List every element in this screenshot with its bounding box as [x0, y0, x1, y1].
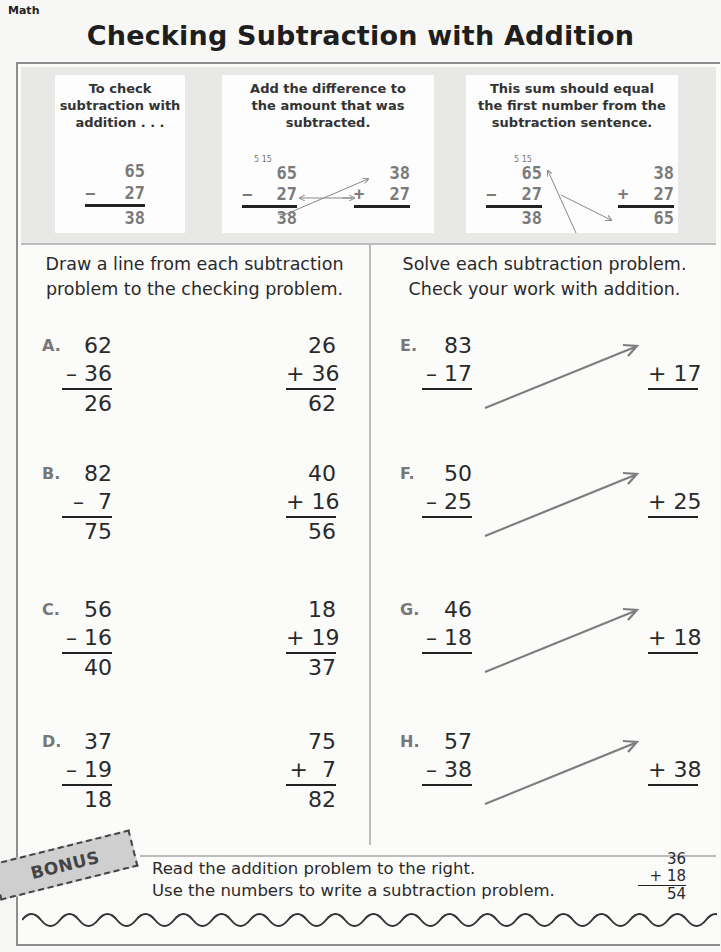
subtraction-problem: 50 – 25 — [422, 460, 472, 546]
subtraction-problem[interactable]: 56 – 16 40 — [62, 596, 112, 682]
text-line: To check — [55, 80, 185, 97]
problem-letter: D. — [42, 732, 61, 751]
intro-card-2: Add the difference to the amount that wa… — [222, 75, 434, 233]
intro-card-1-text: To check subtraction with addition . . . — [55, 80, 185, 131]
addend-2: + 16 — [286, 488, 336, 518]
bonus-problem: 36 + 18 54 — [638, 851, 686, 903]
addend-1: 18 — [286, 596, 336, 624]
right-instructions: Solve each subtraction problem. Check yo… — [372, 252, 717, 302]
problem-letter: H. — [400, 732, 419, 751]
checking-problem: + 38 — [648, 756, 698, 814]
problem-letter: F. — [400, 464, 415, 483]
subtraction-problem[interactable]: 37 – 19 18 — [62, 728, 112, 814]
arrow-icon — [480, 606, 645, 681]
bonus-instructions: Read the addition problem to the right. … — [152, 858, 555, 902]
difference: 18 — [62, 786, 112, 814]
subject-label: Math — [8, 4, 39, 17]
subtraction-problem[interactable]: 62 – 36 26 — [62, 332, 112, 418]
addend-2: + 19 — [286, 624, 336, 654]
addend-2: + 25 — [648, 488, 698, 518]
example-subtraction: 65 −27 38 — [85, 160, 145, 229]
subtrahend: – 38 — [422, 756, 472, 786]
text-line: problem to the checking problem. — [22, 277, 367, 302]
text-line: subtraction with — [55, 97, 185, 114]
minuend: 37 — [62, 728, 112, 756]
problem-letter: G. — [400, 600, 419, 619]
answer-field[interactable] — [422, 786, 472, 814]
difference: 26 — [62, 390, 112, 418]
checking-problem[interactable]: 18 + 19 37 — [286, 596, 336, 682]
addend-2: + 7 — [286, 756, 336, 786]
check-sum-field[interactable] — [648, 654, 698, 682]
problem-letter: E. — [400, 336, 417, 355]
arrow-icon — [222, 75, 434, 233]
subtrahend: – 18 — [422, 624, 472, 654]
check-sum-field[interactable] — [648, 518, 698, 546]
problem-letter: A. — [42, 336, 61, 355]
text-line: Solve each subtraction problem. — [372, 252, 717, 277]
sum: 54 — [638, 886, 686, 903]
text-line: Read the addition problem to the right. — [152, 858, 555, 880]
intro-card-3: This sum should equal the first number f… — [466, 75, 678, 233]
minuend: 83 — [422, 332, 472, 360]
column-divider — [369, 245, 371, 845]
bonus-badge-label: BONUS — [29, 847, 102, 883]
arrow-icon — [466, 75, 678, 233]
subtrahend: – 7 — [62, 488, 112, 518]
checking-problem[interactable]: 40 + 16 56 — [286, 460, 336, 546]
subtrahend: 27 — [125, 183, 145, 203]
check-sum-field[interactable] — [648, 390, 698, 418]
page-title: Checking Subtraction with Addition — [0, 20, 721, 51]
subtrahend: – 36 — [62, 360, 112, 390]
answer-wavy-line[interactable] — [22, 905, 717, 935]
addend-1: 36 — [638, 851, 686, 868]
difference: 38 — [85, 207, 145, 229]
text-line: addition . . . — [55, 114, 185, 131]
subtraction-problem: 57 – 38 — [422, 728, 472, 814]
minuend: 65 — [85, 160, 145, 182]
addend-2: + 36 — [286, 360, 336, 390]
minuend: 50 — [422, 460, 472, 488]
checking-problem: + 25 — [648, 488, 698, 546]
problem-letter: B. — [42, 464, 60, 483]
subtraction-problem: 46 – 18 — [422, 596, 472, 682]
checking-problem: + 17 — [648, 360, 698, 418]
checking-problem: + 18 — [648, 624, 698, 682]
minus-sign: − — [85, 182, 95, 204]
addend-1: 26 — [286, 332, 336, 360]
checking-problem[interactable]: 26 + 36 62 — [286, 332, 336, 418]
difference: 75 — [62, 518, 112, 546]
sum: 56 — [286, 518, 336, 546]
sum: 82 — [286, 786, 336, 814]
left-instructions: Draw a line from each subtraction proble… — [22, 252, 367, 302]
answer-field[interactable] — [422, 654, 472, 682]
intro-card-1: To check subtraction with addition . . .… — [55, 75, 185, 233]
subtraction-problem[interactable]: 82 – 7 75 — [62, 460, 112, 546]
minuend: 56 — [62, 596, 112, 624]
sum: 37 — [286, 654, 336, 682]
addend-2: + 38 — [648, 756, 698, 786]
subtrahend: – 16 — [62, 624, 112, 654]
checking-problem[interactable]: 75 + 7 82 — [286, 728, 336, 814]
minuend: 57 — [422, 728, 472, 756]
minuend: 62 — [62, 332, 112, 360]
minuend: 46 — [422, 596, 472, 624]
addend-1: 40 — [286, 460, 336, 488]
subtraction-problem: 83 – 17 — [422, 332, 472, 418]
subtrahend: – 25 — [422, 488, 472, 518]
subtrahend: – 17 — [422, 360, 472, 390]
addend-1: 75 — [286, 728, 336, 756]
answer-field[interactable] — [422, 390, 472, 418]
addend-2: + 17 — [648, 360, 698, 390]
check-sum-field[interactable] — [648, 786, 698, 814]
minuend: 82 — [62, 460, 112, 488]
arrow-icon — [480, 470, 645, 545]
text-line: Draw a line from each subtraction — [22, 252, 367, 277]
answer-field[interactable] — [422, 518, 472, 546]
text-line: Check your work with addition. — [372, 277, 717, 302]
arrow-icon — [480, 342, 645, 417]
bonus-divider — [140, 855, 716, 857]
text-line: Use the numbers to write a subtraction p… — [152, 880, 555, 902]
problem-letter: C. — [42, 600, 60, 619]
addend-2: + 18 — [648, 624, 698, 654]
